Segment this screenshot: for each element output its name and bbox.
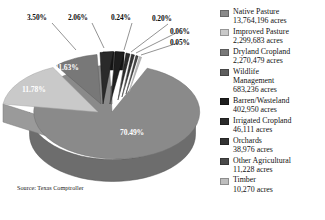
legend-item-name: Irrigated Cropland	[233, 116, 325, 125]
legend-item-name: Wildlife Management	[233, 67, 295, 85]
legend-swatch-icon	[220, 49, 229, 56]
legend-item-value: 13,764,196 acres	[233, 16, 325, 25]
legend-item-name: Native Pasture	[233, 7, 325, 16]
legend-label-group: Wildlife Management 683,236 acres	[233, 67, 325, 95]
pct-label-irrigated-cropland: 0.24%	[111, 13, 131, 22]
legend-item-value: 11,228 acres	[233, 165, 325, 174]
legend-item-timber[interactable]: Timber 10,270 acres	[220, 175, 325, 193]
legend-item-dryland-cropland[interactable]: Dryland Cropland 2,270,479 acres	[220, 47, 325, 65]
legend-label-group: Timber 10,270 acres	[233, 175, 325, 193]
legend-item-name: Orchards	[233, 136, 325, 145]
slice-label-dryland-cropland: 11.63%	[55, 63, 79, 72]
legend-swatch-icon	[220, 118, 229, 125]
legend-swatch-icon	[220, 69, 229, 76]
source-note: Source: Texas Comptroller	[17, 184, 83, 191]
legend-item-value: 46,111 acres	[233, 125, 325, 134]
pct-label-orchards: 0.20%	[152, 14, 172, 23]
legend-item-value: 2,299,683 acres	[233, 36, 325, 45]
pct-label-timber: 0.05%	[170, 38, 190, 47]
legend-swatch-icon	[220, 29, 229, 36]
legend-item-wildlife-management[interactable]: Wildlife Management 683,236 acres	[220, 67, 325, 95]
legend-item-name: Timber	[233, 175, 325, 184]
legend-item-name: Barren/Wasteland	[233, 96, 325, 105]
leader-line-wildlife-management	[52, 23, 76, 50]
legend-item-native-pasture[interactable]: Native Pasture 13,764,196 acres	[220, 7, 325, 25]
legend-item-irrigated-cropland[interactable]: Irrigated Cropland 46,111 acres	[220, 116, 325, 134]
leader-lines	[52, 23, 178, 55]
legend-label-group: Barren/Wasteland 402,950 acres	[233, 96, 325, 114]
legend-label-group: Improved Pasture 2,299,683 acres	[233, 27, 325, 45]
pct-label-other-agricultural: 0.06%	[170, 27, 190, 36]
legend-label-group: Native Pasture 13,764,196 acres	[233, 7, 325, 25]
legend-item-name: Dryland Cropland	[233, 47, 325, 56]
legend-label-group: Other Agricultural 11,228 acres	[233, 156, 325, 174]
legend-item-value: 10,270 acres	[233, 185, 325, 194]
leader-line-barren-wasteland	[92, 23, 104, 48]
legend-label-group: Irrigated Cropland 46,111 acres	[233, 116, 325, 134]
legend-swatch-icon	[220, 178, 229, 185]
legend-item-value: 38,976 acres	[233, 145, 325, 154]
legend-item-value: 402,950 acres	[233, 105, 325, 114]
pct-label-barren-wasteland: 2.06%	[68, 13, 88, 22]
legend-label-group: Dryland Cropland 2,270,479 acres	[233, 47, 325, 65]
legend-swatch-icon	[220, 158, 229, 165]
legend-item-name: Improved Pasture	[233, 27, 325, 36]
legend-item-value: 683,236 acres	[233, 85, 325, 94]
legend-item-improved-pasture[interactable]: Improved Pasture 2,299,683 acres	[220, 27, 325, 45]
slice-label-native-pasture: 70.49%	[120, 128, 144, 137]
legend-item-orchards[interactable]: Orchards 38,976 acres	[220, 136, 325, 154]
chart-plot-area: 3.50% 2.06% 0.24% 0.20% 0.06% 0.05% 11.6…	[0, 0, 218, 220]
legend-label-group: Orchards 38,976 acres	[233, 136, 325, 154]
chart-legend: Native Pasture 13,764,196 acres Improved…	[220, 7, 325, 195]
legend-swatch-icon	[220, 10, 229, 17]
legend-item-barren-wasteland[interactable]: Barren/Wasteland 402,950 acres	[220, 96, 325, 114]
legend-item-name: Other Agricultural	[233, 156, 325, 165]
pie-chart-figure: 3.50% 2.06% 0.24% 0.20% 0.06% 0.05% 11.6…	[0, 0, 325, 220]
legend-item-value: 2,270,479 acres	[233, 56, 325, 65]
legend-item-other-agricultural[interactable]: Other Agricultural 11,228 acres	[220, 156, 325, 174]
pct-label-wildlife-management: 3.50%	[27, 13, 47, 22]
legend-swatch-icon	[220, 98, 229, 105]
legend-swatch-icon	[220, 138, 229, 145]
leader-line-irrigated-cropland	[124, 23, 132, 50]
slice-label-improved-pasture: 11.78%	[22, 85, 46, 94]
